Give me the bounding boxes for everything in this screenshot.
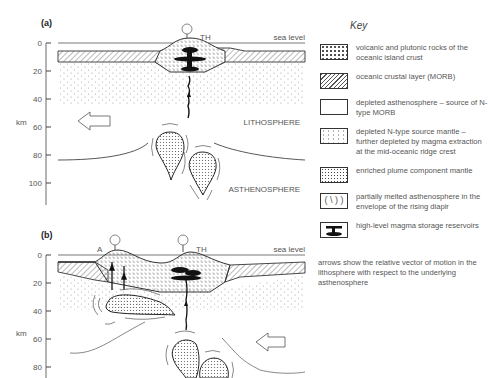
key-item: depleted N-type source mantle – further … <box>320 127 488 157</box>
svg-text:40: 40 <box>33 95 42 104</box>
island-label-a: A <box>97 245 103 254</box>
key-title: Key <box>350 20 488 31</box>
svg-text:60: 60 <box>33 335 42 344</box>
svg-text:80: 80 <box>33 151 42 160</box>
svg-text:20: 20 <box>33 279 42 288</box>
crosses-dots-swatch-icon <box>320 44 348 60</box>
svg-text:40: 40 <box>33 307 42 316</box>
panel-a: (a) 0 20 40 60 80 100 km sea level <box>16 18 305 205</box>
hatched-swatch-icon <box>320 73 348 89</box>
island-label-th-a: TH <box>200 33 211 42</box>
key-item: volcanic and plutonic rocks of the ocean… <box>320 43 488 63</box>
key-item: oceanic crustal layer (MORB) <box>320 72 488 89</box>
island-label-th-b: TH <box>196 245 207 254</box>
svg-text:20: 20 <box>33 67 42 76</box>
axis-b-unit: km <box>16 329 27 338</box>
panel-b-label: (b) <box>41 230 53 240</box>
key-item: depleted asthenosphere – source of N-typ… <box>320 98 488 118</box>
sea-level-label-a: sea level <box>273 33 305 42</box>
sparse-dots-swatch-icon <box>320 128 348 144</box>
panel-b: (b) 0 20 40 60 80 km sea level A TH <box>16 230 305 378</box>
lithosphere-label: LITHOSPHERE <box>244 118 300 127</box>
axis-a-unit: km <box>16 118 27 127</box>
svg-text:80: 80 <box>33 363 42 372</box>
reservoir-swatch-icon <box>320 222 348 238</box>
svg-text:0: 0 <box>38 251 43 260</box>
axis-b-ticks: 0 20 40 60 80 <box>33 251 51 372</box>
key-item: ( \ ) ) partially melted asthenosphere i… <box>320 192 488 212</box>
key-item: high-level magma storage reservoirs <box>320 221 488 238</box>
svg-text:0: 0 <box>38 39 43 48</box>
svg-text:60: 60 <box>33 123 42 132</box>
arrow-note: arrows show the relative vector of motio… <box>318 258 488 288</box>
key-legend: Key volcanic and plutonic rocks of the o… <box>320 20 488 247</box>
key-item: enriched plume component mantle <box>320 166 488 183</box>
sea-level-label-b: sea level <box>273 245 305 254</box>
brackets-swatch-icon: ( \ ) ) <box>320 193 348 209</box>
blank-swatch-icon <box>320 99 348 115</box>
motion-arrow-a <box>78 112 110 130</box>
dense-dots-swatch-icon <box>320 167 348 183</box>
svg-text:100: 100 <box>29 179 43 188</box>
panel-a-label: (a) <box>41 18 52 28</box>
asthenosphere-label: ASTHENOSPHERE <box>228 185 300 194</box>
motion-arrow-b <box>256 333 285 351</box>
axis-a-ticks: 0 20 40 60 80 100 <box>29 39 51 188</box>
